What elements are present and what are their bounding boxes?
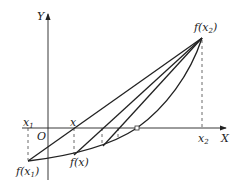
y-axis-label: Y xyxy=(37,10,46,23)
x-label: x xyxy=(70,116,77,129)
fx1-label: f(x1) xyxy=(15,165,39,179)
x-axis-label: X xyxy=(220,132,230,145)
convex-function-diagram: Y X O x1 x x2 f(x1) f(x) f(x2) xyxy=(0,0,238,185)
x1-label: x1 xyxy=(23,116,34,130)
fx2-label: f(x2) xyxy=(193,21,217,35)
origin-label: O xyxy=(37,130,46,143)
root-marker xyxy=(135,126,139,130)
x2-label: x2 xyxy=(198,132,209,146)
secant-lines xyxy=(28,38,202,161)
fx-label: f(x) xyxy=(69,156,89,169)
